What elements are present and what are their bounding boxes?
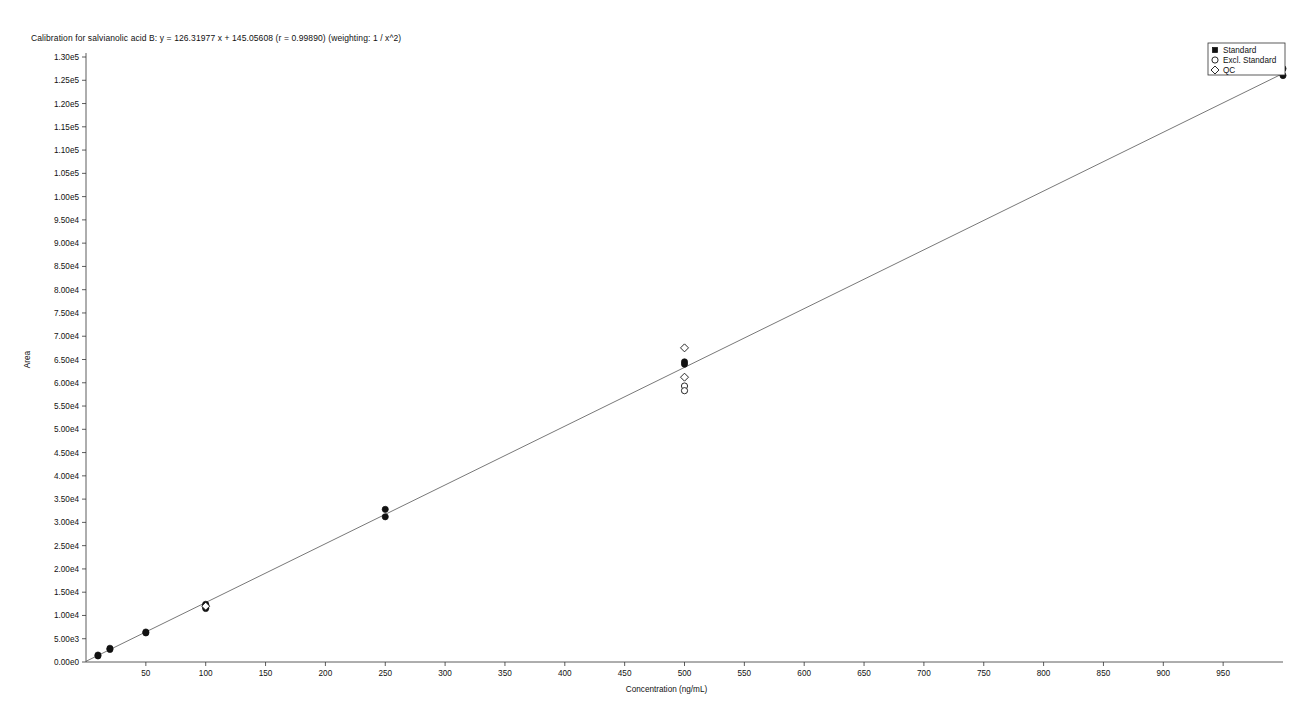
x-tick-label: 200 bbox=[319, 669, 333, 678]
x-tick-label: 700 bbox=[917, 669, 931, 678]
x-tick-label: 100 bbox=[199, 669, 213, 678]
y-tick-label: 2.00e4 bbox=[54, 565, 79, 574]
x-tick-label: 950 bbox=[1216, 669, 1230, 678]
x-tick-label: 450 bbox=[618, 669, 632, 678]
x-tick-label: 350 bbox=[498, 669, 512, 678]
y-tick-label: 2.50e4 bbox=[54, 542, 79, 551]
y-tick-label: 1.05e5 bbox=[54, 169, 79, 178]
x-tick-label: 400 bbox=[558, 669, 572, 678]
y-tick-label: 4.50e4 bbox=[54, 449, 79, 458]
y-tick-label: 1.00e5 bbox=[54, 193, 79, 202]
x-tick-label: 900 bbox=[1156, 669, 1170, 678]
x-tick-label: 300 bbox=[438, 669, 452, 678]
x-tick-label: 600 bbox=[797, 669, 811, 678]
x-tick-label: 50 bbox=[141, 669, 151, 678]
x-tick-label: 850 bbox=[1097, 669, 1111, 678]
data-point-standard bbox=[95, 653, 101, 659]
y-tick-label: 6.00e4 bbox=[54, 379, 79, 388]
y-tick-label: 8.00e4 bbox=[54, 286, 79, 295]
x-tick-label: 150 bbox=[259, 669, 273, 678]
legend-marker-standard bbox=[1212, 47, 1217, 52]
y-tick-label: 1.30e5 bbox=[54, 53, 79, 62]
data-point-standard bbox=[382, 514, 388, 520]
x-tick-label: 800 bbox=[1037, 669, 1051, 678]
data-point-standard bbox=[681, 361, 687, 367]
y-tick-label: 5.00e4 bbox=[54, 425, 79, 434]
y-tick-label: 7.50e4 bbox=[54, 309, 79, 318]
plot-area: 0.00e05.00e31.00e41.50e42.00e42.50e43.00… bbox=[0, 0, 1293, 716]
data-point-excl-standard bbox=[681, 388, 687, 394]
data-point-qc bbox=[681, 344, 689, 352]
legend-label: Standard bbox=[1223, 46, 1257, 55]
y-tick-label: 9.50e4 bbox=[54, 216, 79, 225]
data-point-standard bbox=[143, 630, 149, 636]
y-tick-label: 3.50e4 bbox=[54, 495, 79, 504]
data-point-qc bbox=[681, 373, 689, 381]
data-point-standard bbox=[382, 506, 388, 512]
x-tick-label: 650 bbox=[857, 669, 871, 678]
y-tick-label: 1.20e5 bbox=[54, 100, 79, 109]
y-tick-label: 5.00e3 bbox=[54, 635, 79, 644]
y-axis-title: Area bbox=[23, 350, 32, 368]
legend-marker-excl-standard bbox=[1212, 57, 1218, 63]
y-tick-label: 1.15e5 bbox=[54, 123, 79, 132]
y-tick-label: 3.00e4 bbox=[54, 518, 79, 527]
y-tick-label: 1.50e4 bbox=[54, 588, 79, 597]
y-tick-label: 9.00e4 bbox=[54, 239, 79, 248]
legend-label: Excl. Standard bbox=[1223, 56, 1277, 65]
y-tick-label: 6.50e4 bbox=[54, 356, 79, 365]
x-tick-label: 500 bbox=[678, 669, 692, 678]
data-points-group bbox=[95, 66, 1286, 660]
x-tick-label: 750 bbox=[977, 669, 991, 678]
x-axis-title: Concentration (ng/mL) bbox=[626, 685, 708, 694]
y-tick-label: 7.00e4 bbox=[54, 332, 79, 341]
y-tick-label: 8.50e4 bbox=[54, 262, 79, 271]
y-tick-label: 1.25e5 bbox=[54, 76, 79, 85]
axis-titles-group: Concentration (ng/mL)Area bbox=[23, 350, 707, 694]
chart-legend: StandardExcl. StandardQC bbox=[1208, 43, 1285, 75]
y-tick-label: 0.00e0 bbox=[54, 658, 79, 667]
legend-label: QC bbox=[1223, 66, 1235, 75]
y-tick-label: 4.00e4 bbox=[54, 472, 79, 481]
y-tick-label: 1.00e4 bbox=[54, 611, 79, 620]
calibration-chart: Calibration for salvianolic acid B: y = … bbox=[0, 0, 1293, 716]
x-tick-label: 550 bbox=[738, 669, 752, 678]
y-tick-label: 1.10e5 bbox=[54, 146, 79, 155]
data-point-standard bbox=[107, 646, 113, 652]
x-tick-label: 250 bbox=[378, 669, 392, 678]
axes-group: 0.00e05.00e31.00e41.50e42.00e42.50e43.00… bbox=[54, 53, 1283, 678]
y-tick-label: 5.50e4 bbox=[54, 402, 79, 411]
